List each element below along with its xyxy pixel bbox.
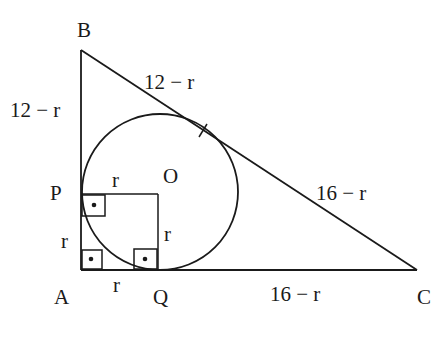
label-o: O (163, 164, 178, 188)
label-b: B (77, 18, 91, 42)
label-ap-length: r (61, 229, 68, 253)
label-p: P (50, 181, 62, 205)
label-q: Q (153, 285, 168, 309)
label-c: C (417, 285, 431, 309)
label-ab-length: 12 − r (10, 98, 60, 122)
label-oq-length: r (164, 222, 171, 246)
triangle-abc (81, 50, 417, 270)
label-a: A (54, 285, 70, 309)
right-angle-marker-a (82, 250, 102, 269)
side-bc (81, 50, 417, 270)
label-bc-lower-length: 16 − r (316, 181, 366, 205)
label-aq-length: r (113, 273, 120, 297)
diagram-canvas: B A C P Q O 12 − r 12 − r 16 − r 16 − r … (0, 0, 444, 340)
geometry-diagram: B A C P Q O 12 − r 12 − r 16 − r 16 − r … (0, 0, 444, 340)
label-qc-length: 16 − r (270, 282, 320, 306)
label-bc-upper-length: 12 − r (144, 70, 194, 94)
incircle (82, 114, 238, 270)
label-po-length: r (112, 168, 119, 192)
